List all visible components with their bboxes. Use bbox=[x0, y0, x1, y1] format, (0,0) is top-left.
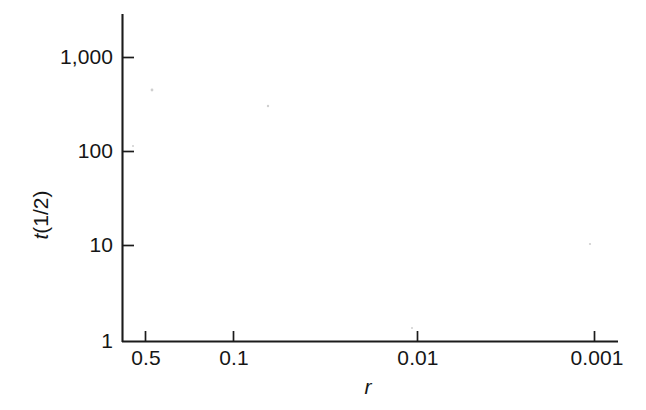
svg-text:t(1/2): t(1/2) bbox=[29, 190, 52, 239]
y-axis-title: t(1/2) bbox=[29, 190, 52, 239]
plot-area bbox=[122, 14, 618, 342]
y-tick-label-10: 10 bbox=[89, 233, 113, 256]
x-tick-label-0-01: 0.01 bbox=[397, 346, 438, 369]
y-tick-label-1: 1 bbox=[101, 329, 113, 352]
y-axis-title-suffix: (1/2) bbox=[29, 190, 52, 233]
x-tick-label-0-001: 0.001 bbox=[570, 346, 623, 369]
x-axis-tick-labels: 0.5 0.1 0.01 0.001 bbox=[131, 346, 623, 369]
figure-root: 1,000 100 10 1 0.5 0.1 0.01 0.001 r t(1/… bbox=[0, 0, 646, 410]
x-axis-title: r bbox=[365, 375, 373, 398]
y-tick-label-100: 100 bbox=[78, 139, 113, 162]
x-tick-label-0-5: 0.5 bbox=[131, 346, 161, 369]
x-tick-label-0-1: 0.1 bbox=[219, 346, 249, 369]
y-axis-tick-labels: 1,000 100 10 1 bbox=[60, 45, 113, 352]
log-log-chart: 1,000 100 10 1 0.5 0.1 0.01 0.001 r t(1/… bbox=[0, 0, 646, 410]
y-tick-label-1000: 1,000 bbox=[60, 45, 113, 68]
